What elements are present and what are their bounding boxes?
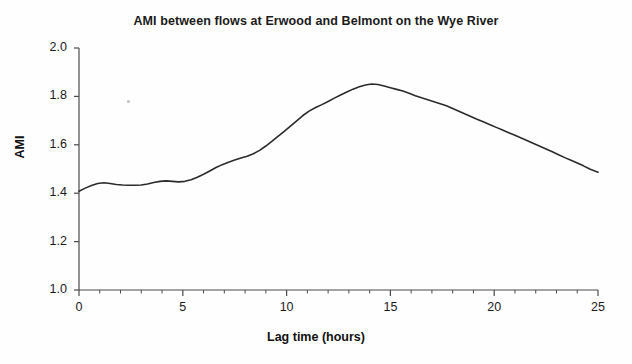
x-tick-label: 15 (370, 300, 410, 314)
y-tick-label: 2.0 (27, 40, 67, 54)
y-tick-label: 1.6 (27, 137, 67, 151)
axes (74, 48, 598, 296)
x-tick-label: 10 (267, 300, 307, 314)
y-tick-label: 1.4 (27, 185, 67, 199)
scan-artifact-speck (127, 100, 130, 103)
x-tick-label: 25 (578, 300, 618, 314)
data-series (79, 84, 598, 191)
y-tick-label: 1.2 (27, 234, 67, 248)
x-tick-label: 5 (163, 300, 203, 314)
y-tick-label: 1.0 (27, 282, 67, 296)
ami-line (79, 84, 598, 191)
chart-container: AMI between flows at Erwood and Belmont … (0, 0, 632, 364)
y-tick-label: 1.8 (27, 88, 67, 102)
x-tick-label: 20 (474, 300, 514, 314)
x-tick-label: 0 (59, 300, 99, 314)
